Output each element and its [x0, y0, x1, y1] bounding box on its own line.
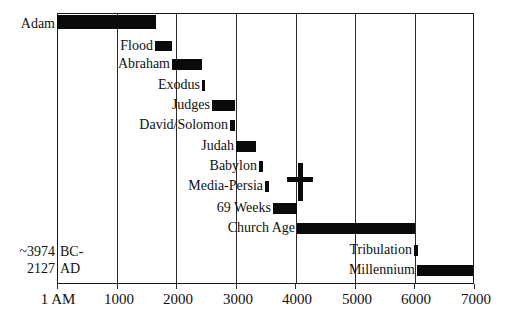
row-label-babylon: Babylon [210, 159, 257, 173]
tick-7000 [474, 284, 475, 289]
bar-abraham [172, 59, 202, 70]
tick-1000 [117, 284, 118, 289]
row-label-flood: Flood [120, 39, 153, 53]
x-tick-label-6000: 6000 [401, 290, 431, 308]
tick-3000 [236, 284, 237, 289]
x-tick-label-5000: 5000 [342, 290, 372, 308]
gridline-1000 [117, 14, 118, 283]
bar-exodus [202, 80, 205, 91]
x-axis-labels: 1 AM 1000 2000 3000 4000 5000 6000 7000 [0, 290, 505, 312]
cross-vertical-stroke [298, 163, 303, 201]
row-label-exodus: Exodus [158, 78, 200, 92]
tick-6000 [414, 284, 415, 289]
x-tick-label-0: 1 AM [41, 290, 76, 308]
era-start-year: ~3974 [19, 244, 55, 260]
gridline-2000 [176, 14, 177, 283]
bar-millennium [417, 265, 473, 276]
timeline-chart: Adam Flood Abraham Exodus Judges David/S… [0, 0, 505, 317]
x-tick-label-2000: 2000 [163, 290, 193, 308]
tick-2000 [176, 284, 177, 289]
bar-tribulation [414, 245, 418, 256]
bar-69-weeks [273, 203, 297, 214]
gridline-6000 [415, 14, 416, 283]
gridline-4000 [296, 14, 297, 283]
cross-horizontal-stroke [287, 177, 313, 182]
row-label-judges: Judges [172, 98, 210, 112]
row-label-abraham: Abraham [118, 57, 170, 71]
row-label-adam: Adam [21, 17, 55, 31]
tick-4000 [295, 284, 296, 289]
era-start-suffix: BC- [60, 244, 83, 260]
bar-david-solomon [230, 120, 235, 131]
bar-adam [57, 15, 156, 29]
bar-media-persia [265, 181, 269, 192]
bar-judah [236, 141, 256, 152]
bar-flood [155, 41, 172, 51]
era-end-year: 2127 [27, 261, 55, 277]
x-tick-label-7000: 7000 [461, 290, 491, 308]
cross-icon [287, 163, 313, 201]
bar-babylon [259, 161, 263, 172]
row-label-media-persia: Media-Persia [188, 179, 263, 193]
tick-0 [57, 284, 58, 289]
row-label-david-solomon: David/Solomon [139, 118, 228, 132]
tick-5000 [355, 284, 356, 289]
bar-church-age [297, 223, 415, 234]
row-label-judah: Judah [201, 139, 234, 153]
bar-judges [212, 100, 235, 111]
x-tick-label-1000: 1000 [104, 290, 134, 308]
x-tick-label-3000: 3000 [223, 290, 253, 308]
x-tick-label-4000: 4000 [282, 290, 312, 308]
row-label-tribulation: Tribulation [350, 243, 413, 257]
era-end-suffix: AD [60, 261, 80, 277]
row-label-69-weeks: 69 Weeks [217, 201, 271, 215]
row-label-church-age: Church Age [228, 221, 295, 235]
row-label-millennium: Millennium [349, 263, 415, 277]
